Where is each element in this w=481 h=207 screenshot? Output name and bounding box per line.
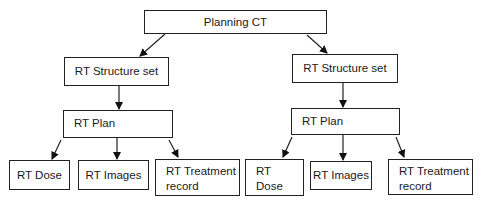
left-dose-box: RT Dose [9, 160, 70, 190]
right-images-label: RT Images [313, 168, 369, 183]
arrow-left-plan-to-treatment [169, 140, 178, 157]
arrow-root-to-right-structure [307, 35, 327, 53]
right-images-box: RT Images [310, 161, 372, 190]
right-dose-box: RT Dose [245, 159, 304, 196]
right-plan-box: RT Plan [291, 108, 400, 135]
left-structure-set-label: RT Structure set [75, 64, 158, 79]
left-treatment-record-label: RT Treatment record [166, 165, 236, 192]
right-dose-label: RT Dose [256, 165, 283, 192]
arrow-root-to-left-structure [140, 34, 165, 56]
left-plan-label: RT Plan [74, 117, 115, 129]
arrow-right-plan-to-treatment [396, 137, 404, 157]
planning-ct-box: Planning CT [144, 10, 327, 34]
right-structure-set-label: RT Structure set [303, 61, 386, 76]
left-treatment-record-box: RT Treatment record [155, 159, 240, 196]
planning-ct-label: Planning CT [204, 15, 267, 30]
right-plan-label: RT Plan [302, 115, 343, 127]
right-treatment-record-label: RT Treatment record [399, 165, 469, 192]
arrow-left-plan-to-dose [52, 140, 61, 159]
right-structure-set-box: RT Structure set [292, 54, 398, 83]
left-dose-label: RT Dose [17, 168, 62, 183]
left-images-label: RT Images [86, 168, 142, 183]
arrow-right-plan-to-dose [283, 137, 292, 157]
left-images-box: RT Images [78, 160, 149, 190]
left-plan-box: RT Plan [63, 110, 173, 138]
right-treatment-record-box: RT Treatment record [388, 159, 473, 195]
left-structure-set-box: RT Structure set [64, 57, 169, 86]
